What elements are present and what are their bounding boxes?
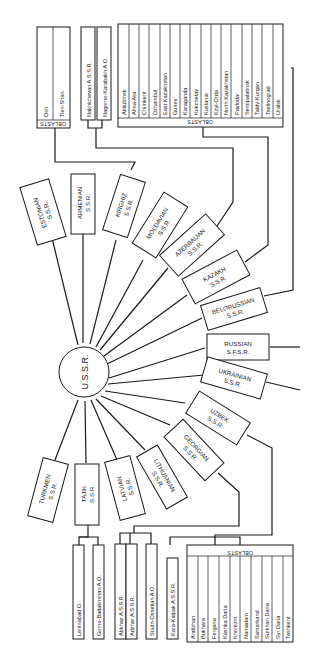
svg-text:Uralsk: Uralsk (275, 99, 281, 115)
ussr-label: U.S.S.R. (80, 354, 90, 389)
svg-text:S.F.S.R.: S.F.S.R. (227, 348, 250, 355)
svg-text:Kzyl-Orda: Kzyl-Orda (213, 89, 219, 115)
svg-text:Semipalatinsk: Semipalatinsk (244, 80, 250, 115)
svg-text:OBLASTS: OBLASTS (187, 119, 213, 125)
svg-text:S.S.R.: S.S.R. (84, 194, 91, 212)
svg-text:Chimkent: Chimkent (141, 91, 147, 115)
svg-text:North Kazakhstan: North Kazakhstan (223, 71, 229, 115)
republic-ukrainian: UKRAINIAN S.S.R. (201, 357, 268, 399)
svg-text:Tselinograd: Tselinograd (265, 86, 271, 115)
svg-text:Kara-Kalpak A.S.S.R.: Kara-Kalpak A.S.S.R. (170, 582, 176, 636)
svg-text:Nagorno-Karabakh A.O.: Nagorno-Karabakh A.O. (102, 57, 108, 117)
georgian-subdivisions: Abkhaz A.S.S.R. Adzhar A.S.S.R. South-Os… (115, 544, 157, 639)
svg-text:Fergana: Fergana (211, 617, 217, 639)
svg-text:Khorezm: Khorezm (232, 616, 238, 639)
svg-text:Namadam: Namadam (243, 613, 249, 639)
svg-text:Aktiubinsk: Aktiubinsk (121, 89, 127, 115)
svg-text:Karaganda: Karaganda (182, 87, 188, 115)
republic-kirghiz: KIRGHIZ S.S.R. (103, 174, 146, 237)
ussr-node: U.S.S.R. (59, 347, 109, 397)
republic-russian: RUSSIAN S.F.S.R. (207, 334, 269, 360)
svg-text:Andizhan: Andizhan (190, 616, 196, 639)
svg-text:Gorno-Badakhshan A.O.: Gorno-Badakhshan A.O. (96, 575, 102, 636)
svg-text:ARMENIAN: ARMENIAN (76, 187, 83, 220)
svg-text:Tashkent: Tashkent (285, 616, 291, 639)
republic-turkmen: TURKMEN S.S.R. (28, 458, 69, 523)
svg-text:Osh: Osh (43, 107, 49, 117)
uzbek-oblasts-table: OBLASTS Andizhan Bukhara Fergana Kashka … (187, 545, 293, 642)
svg-text:Samarkand: Samarkand (254, 610, 260, 639)
svg-text:Guriev: Guriev (172, 98, 178, 115)
svg-text:S.S.R.: S.S.R. (88, 485, 95, 503)
kazakh-oblasts-table: OBLASTS Aktiubinsk Alma-Ata Chimkent Dzh… (118, 24, 283, 127)
republic-latvian: LATVIAN S.S.R. (105, 456, 146, 521)
svg-text:East Kazakhstan: East Kazakhstan (162, 73, 168, 115)
tajik-subdivisions: Leninabad O. Gorno-Badakhshan A.O. (73, 545, 104, 639)
svg-text:Kokchetav: Kokchetav (193, 89, 199, 115)
svg-text:Kashka Daria: Kashka Daria (222, 605, 228, 639)
uzbek-subdivisions: Kara-Kalpak A.S.S.R. (167, 558, 178, 639)
svg-text:TAJIK: TAJIK (80, 485, 87, 502)
republic-lithuanian: LITHUANIAN S.S.R. (137, 445, 188, 509)
svg-text:South-Ossetian A.O.: South-Ossetian A.O. (149, 585, 155, 636)
azerbaijan-subdivisions: Nakhichevan A.S.S.R. Nagorno-Karabakh A.… (81, 27, 111, 120)
svg-text:OBLASTS: OBLASTS (40, 121, 66, 127)
republic-tajik: TAJIK S.S.R. (75, 464, 99, 525)
republic-armenian: ARMENIAN S.S.R. (71, 174, 95, 234)
svg-text:Taldy-Kurgan: Taldy-Kurgan (254, 82, 260, 115)
svg-text:Abkhaz A.S.S.R.: Abkhaz A.S.S.R. (118, 594, 124, 636)
svg-text:Adzhar A.S.S.R.: Adzhar A.S.S.R. (129, 595, 135, 636)
svg-text:Leninabad O.: Leninabad O. (76, 602, 82, 636)
svg-text:Alma-Ata: Alma-Ata (131, 91, 137, 115)
svg-text:OBLASTS: OBLASTS (227, 550, 253, 556)
kirghiz-oblasts-table: OBLASTS Osh Tien-Shan (37, 27, 70, 128)
svg-text:Tien-Shan: Tien-Shan (59, 91, 65, 117)
svg-text:Surkhan Daria: Surkhan Daria (264, 602, 270, 639)
svg-text:Dzhambul: Dzhambul (152, 90, 158, 115)
svg-text:RUSSIAN: RUSSIAN (224, 340, 252, 347)
svg-text:Nakhichevan A.S.S.R.: Nakhichevan A.S.S.R. (86, 62, 92, 117)
svg-text:Kustanai: Kustanai (203, 93, 209, 115)
svg-text:Pavlodar: Pavlodar (234, 93, 240, 115)
svg-text:Syr Daria: Syr Daria (275, 615, 281, 639)
ussr-administrative-diagram: U.S.S.R. ESTONIAN S.S.R. ARMENIAN S.S.R.… (0, 0, 315, 670)
republic-estonian: ESTONIAN S.S.R. (20, 179, 66, 245)
svg-text:Bukhara: Bukhara (200, 617, 206, 639)
